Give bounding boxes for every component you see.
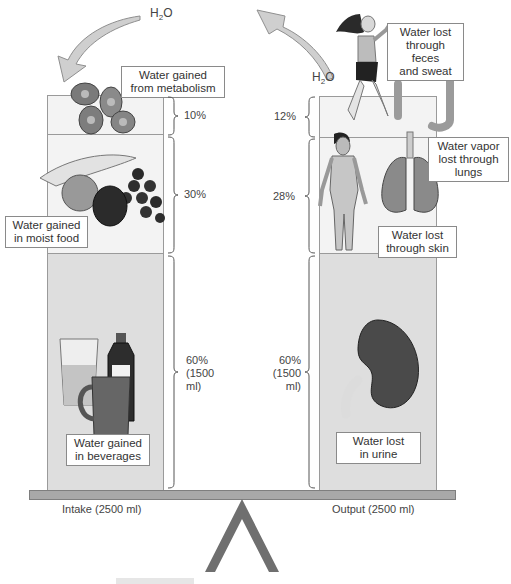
brace-moist-food-icon (166, 136, 180, 254)
intake-caption: Intake (2500 ml) (62, 503, 141, 515)
output-caption: Output (2500 ml) (332, 503, 415, 515)
fulcrum-icon (205, 499, 280, 574)
percent-lungs-skin: 28% (273, 190, 295, 203)
percent-urine: 60% (1500 ml) (268, 354, 301, 393)
human-body-icon (318, 130, 368, 260)
percent-moist-food: 30% (184, 188, 206, 201)
gray-strip (116, 578, 194, 584)
brace-lungs-skin-icon (303, 138, 317, 254)
kidney-icon (338, 318, 418, 418)
percent-feces-sweat: 12% (274, 110, 296, 123)
percent-metabolism: 10% (184, 109, 206, 122)
label-water-gained-metabolism: Water gained from metabolism (121, 66, 225, 98)
brace-beverages-icon (166, 255, 180, 489)
beverages-icon (58, 325, 153, 425)
label-water-gained-moist-food: Water gained in moist food (5, 216, 88, 248)
brace-metabolism-icon (166, 96, 180, 136)
h2o-label-in: H2O (150, 6, 172, 22)
percent-beverages: 60% (1500 ml) (186, 354, 214, 393)
brace-feces-sweat-icon (303, 96, 317, 138)
label-water-lost-skin: Water lost through skin (378, 226, 457, 258)
label-water-vapor-lost-lungs: Water vapor lost through lungs (428, 137, 509, 182)
runner-icon (330, 10, 390, 130)
label-water-lost-feces-sweat: Water lost through feces and sweat (387, 23, 464, 81)
label-water-lost-urine: Water lost in urine (336, 432, 421, 464)
label-water-gained-beverages: Water gained in beverages (66, 434, 150, 466)
brace-urine-icon (303, 255, 317, 489)
